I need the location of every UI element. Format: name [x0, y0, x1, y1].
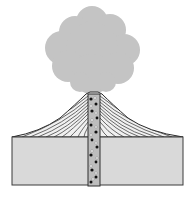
vent	[88, 94, 100, 186]
ash-cloud	[45, 6, 140, 102]
volcano-svg	[0, 0, 195, 199]
volcano-diagram	[0, 0, 195, 199]
